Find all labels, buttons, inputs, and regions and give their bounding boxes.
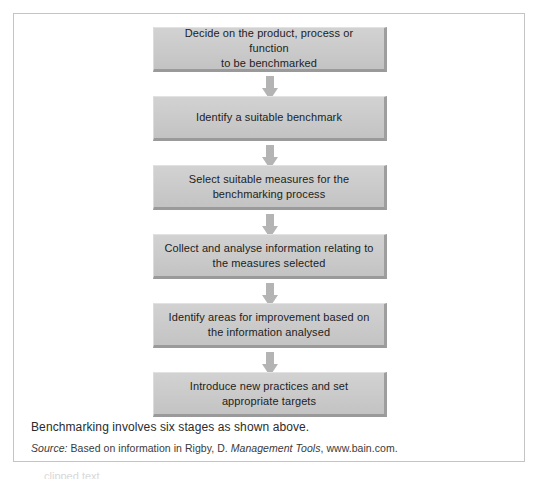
flow-step-2-label: Identify a suitable benchmark: [196, 110, 342, 125]
flow-step-6[interactable]: Introduce new practices and set appropri…: [153, 372, 387, 417]
source-title: Management Tools: [231, 442, 321, 454]
flow-step-1[interactable]: Decide on the product, process or functi…: [153, 27, 387, 72]
benchmarking-flowchart: Decide on the product, process or functi…: [14, 14, 526, 414]
clipped-footer-text: clipped text: [44, 470, 254, 479]
flow-step-6-label: Introduce new practices and set appropri…: [190, 379, 348, 409]
source-suffix: , www.bain.com.: [320, 442, 397, 454]
caption-block: Benchmarking involves six stages as show…: [31, 418, 501, 456]
source-label: Source:: [31, 442, 68, 454]
figure-frame: Decide on the product, process or functi…: [13, 13, 525, 462]
flow-step-2[interactable]: Identify a suitable benchmark: [153, 96, 387, 141]
flow-step-4[interactable]: Collect and analyse information relating…: [153, 234, 387, 279]
flow-step-1-label: Decide on the product, process or functi…: [164, 26, 374, 71]
flow-step-5-label: Identify areas for improvement based on …: [169, 310, 370, 340]
flow-step-5[interactable]: Identify areas for improvement based on …: [153, 303, 387, 348]
flow-step-3-label: Select suitable measures for the benchma…: [189, 172, 349, 202]
figure-source: Source: Based on information in Rigby, D…: [31, 440, 501, 456]
flow-step-3[interactable]: Select suitable measures for the benchma…: [153, 165, 387, 210]
source-prefix: Based on information in Rigby, D.: [68, 442, 231, 454]
figure-caption: Benchmarking involves six stages as show…: [31, 418, 501, 436]
flow-step-4-label: Collect and analyse information relating…: [164, 241, 373, 271]
